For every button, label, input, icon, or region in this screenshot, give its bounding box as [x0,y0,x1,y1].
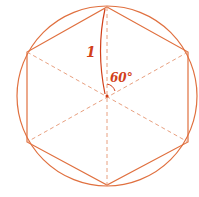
side-length-label: 1 [86,44,96,60]
hexagon-diagram: 1 60° [0,0,199,197]
side-brace-arc [101,9,106,94]
center-point [106,95,109,98]
angle-arc [107,84,115,91]
angle-label: 60° [110,71,133,85]
